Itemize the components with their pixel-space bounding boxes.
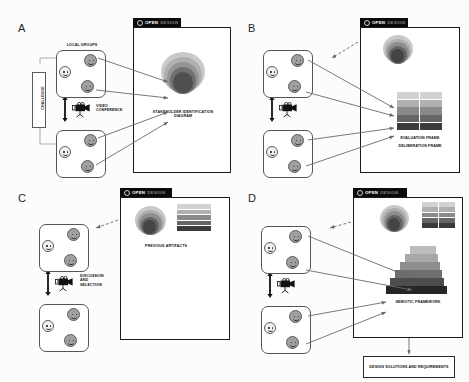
grid-cell [439, 218, 455, 223]
grid-cell [439, 213, 455, 218]
tab-label-open: OPEN [132, 190, 145, 195]
stakeholder-onion-diagram [133, 205, 169, 239]
grid-cell [420, 92, 442, 99]
member-node [42, 240, 54, 252]
grid-cell [422, 207, 438, 212]
video-camera-icon [279, 102, 303, 118]
grid-cell [194, 226, 211, 231]
grid-cell [420, 123, 442, 130]
grid-cell [397, 100, 419, 107]
panel-b-window-body: EVALUATION FRAME DELIBERATION FRAME [360, 27, 460, 173]
panel-a: A [0, 0, 234, 190]
panel-a-window-body: STAKEHOLDER IDENTIFICATION DIAGRAM [133, 27, 231, 173]
member-node [288, 160, 301, 173]
panel-b-artifact-caption-2: DELIBERATION FRAME [387, 144, 453, 148]
tab-label-design: DESIGN [147, 190, 165, 195]
open-circle-icon [137, 20, 143, 26]
onion-ring [173, 72, 193, 93]
panel-b: B [236, 0, 469, 190]
panel-a-artifact-caption: STAKEHOLDER IDENTIFICATION DIAGRAM [151, 110, 215, 119]
stakeholder-onion-diagram [158, 50, 208, 100]
member-node [266, 146, 278, 158]
member-node [291, 134, 304, 147]
tab-label-design: DESIGN [380, 190, 398, 195]
member-node [264, 242, 276, 254]
panel-c-letter: C [18, 192, 26, 204]
panel-d-window: OPEN DESIGN [353, 188, 463, 338]
member-node [84, 134, 97, 147]
member-node [286, 336, 299, 349]
onion-ring [143, 220, 156, 234]
evaluation-frame-grid [397, 92, 442, 130]
tab-label-design: DESIGN [160, 20, 178, 25]
panel-b-tab[interactable]: OPEN DESIGN [360, 18, 408, 27]
grid-cell [397, 92, 419, 99]
grid-cell [397, 107, 419, 114]
ladder-step [400, 262, 440, 270]
grid-cell [177, 226, 194, 231]
member-node [289, 230, 302, 243]
video-camera-icon [277, 278, 301, 294]
member-node [288, 80, 301, 93]
panel-a-window: OPEN DESIGN STAKEHOLDER IDENTIFICATION D… [133, 18, 231, 173]
panel-a-tab[interactable]: OPEN DESIGN [133, 18, 181, 27]
video-camera-icon [55, 276, 79, 292]
open-circle-icon [124, 190, 130, 196]
stakeholder-onion-diagram [378, 204, 412, 236]
panel-a-letter: A [18, 22, 25, 34]
member-node [291, 54, 304, 67]
grid-cell [422, 202, 438, 207]
member-node [67, 228, 80, 241]
member-node [286, 256, 299, 269]
panel-d-tab[interactable]: OPEN DESIGN [353, 188, 407, 197]
design-output-label: DESIGN SOLUTIONS AND REQUIREMENTS [367, 365, 451, 369]
grid-cell [177, 221, 194, 226]
member-node [59, 66, 71, 78]
panel-b-letter: B [248, 22, 255, 34]
member-node [64, 254, 77, 267]
grid-cell [422, 223, 438, 228]
onion-ring [388, 218, 400, 231]
figure-canvas: A [0, 0, 469, 382]
tab-label-open: OPEN [145, 20, 158, 25]
ladder-step [405, 254, 438, 262]
grid-cell [194, 221, 211, 226]
stakeholder-onion-diagram [381, 34, 415, 68]
video-camera-icon [72, 102, 96, 118]
panel-c-tab[interactable]: OPEN DESIGN [120, 188, 172, 197]
member-node [84, 54, 97, 67]
panel-d-letter: D [248, 192, 256, 204]
panel-a-group-label: LOCAL GROUPS [54, 43, 110, 47]
tab-label-design: DESIGN [387, 20, 405, 25]
ladder-step [410, 246, 436, 254]
panel-c-conference-label: DISCUSSION AND SELECTION [80, 274, 108, 287]
ladder-step [395, 270, 442, 278]
grid-cell [194, 204, 211, 209]
panel-d: D [236, 178, 469, 382]
grid-cell [420, 115, 442, 122]
open-circle-icon [357, 190, 363, 196]
member-node [81, 80, 94, 93]
panel-c-window-body: PREVIOUS ARTIFACTS [120, 197, 230, 340]
grid-cell [177, 210, 194, 215]
panel-d-artifact-caption: SEMIOTIC FRAMEWORK [388, 300, 448, 304]
panel-c-window: OPEN DESIGN PREVIOUS ART [120, 188, 230, 340]
panel-b-collaboration-diagram [260, 42, 330, 172]
grid-cell [439, 207, 455, 212]
onion-ring [391, 49, 404, 63]
grid-cell [420, 100, 442, 107]
evaluation-frame-grid [422, 202, 455, 228]
panel-c-artifact-caption: PREVIOUS ARTIFACTS [133, 244, 199, 248]
panel-b-window: OPEN DESIGN EVALUATION F [360, 18, 460, 173]
member-node [289, 310, 302, 323]
grid-cell [439, 202, 455, 207]
ladder-step [390, 278, 444, 286]
panel-b-artifact-caption: EVALUATION FRAME [387, 136, 453, 140]
semiotic-framework-ladder [386, 246, 458, 294]
open-circle-icon [364, 20, 370, 26]
grid-cell [420, 107, 442, 114]
design-output-box: DESIGN SOLUTIONS AND REQUIREMENTS [363, 356, 455, 378]
panel-c: C [0, 178, 234, 382]
member-node [64, 334, 77, 347]
panel-a-conference-label: VIDEO CONFERENCE [96, 104, 126, 113]
